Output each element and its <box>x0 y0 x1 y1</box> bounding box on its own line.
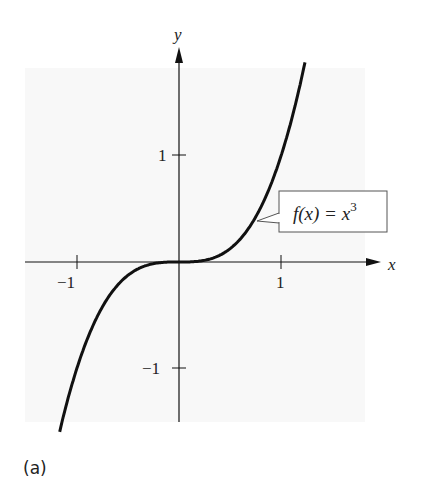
x-axis-label: x <box>387 255 396 274</box>
y-axis-label: y <box>172 25 182 44</box>
y-tick-label-neg1: −1 <box>142 359 160 378</box>
y-tick-label-1: 1 <box>158 146 167 165</box>
x-axis-arrow-icon <box>366 258 381 266</box>
figure-caption: (a) <box>23 458 47 478</box>
cubic-function-plot: x y −1 1 1 −1 f(x) = x3 <box>0 0 421 499</box>
x-tick-label-neg1: −1 <box>57 273 75 292</box>
function-label: f(x) = x3 <box>293 199 357 225</box>
y-axis-arrow-icon <box>175 47 183 63</box>
x-tick-label-1: 1 <box>276 273 285 292</box>
